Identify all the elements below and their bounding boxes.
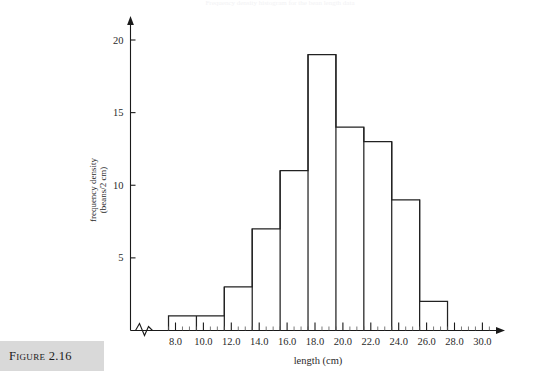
x-axis-tick-label: 26.0 (417, 336, 435, 347)
figure-caption-label: Figure 2.16 (0, 349, 72, 364)
y-axis-tick-label: 10 (113, 180, 124, 191)
histogram-bars-group (169, 55, 448, 331)
x-axis-tick-label: 8.0 (169, 336, 182, 347)
x-axis-tick-label: 12.0 (222, 336, 240, 347)
x-axis-tick-label: 10.0 (194, 336, 212, 347)
x-axis-tick-label: 16.0 (278, 336, 296, 347)
x-axis-ticks (169, 323, 490, 331)
y-axis-group: 5101520 (113, 16, 136, 331)
axis-break-zigzag-icon (136, 324, 153, 336)
x-axis-title: length (cm) (294, 355, 343, 367)
histogram-plot: 8.010.012.014.016.018.020.022.024.026.02… (0, 0, 533, 378)
x-axis-tick-label: 20.0 (334, 336, 352, 347)
x-axis-group: 8.010.012.014.016.018.020.022.024.026.02… (131, 323, 506, 347)
y-axis-tick-labels: 5101520 (113, 35, 124, 264)
y-axis-tick-label: 15 (113, 107, 124, 118)
figure-container: Frequency density histogram for the bean… (0, 0, 533, 378)
y-axis-title-line1: frequency density (88, 157, 98, 222)
y-axis-ticks (131, 40, 136, 258)
x-axis-tick-label: 14.0 (250, 336, 268, 347)
y-axis-tick-label: 5 (118, 252, 123, 263)
x-axis-tick-label: 24.0 (390, 336, 408, 347)
y-axis-arrow-icon (127, 16, 134, 25)
x-axis-tick-label: 18.0 (306, 336, 324, 347)
x-axis-arrow-icon (496, 327, 505, 334)
y-axis-title: frequency density (beans/2 cm) (88, 157, 108, 222)
x-axis-tick-labels: 8.010.012.014.016.018.020.022.024.026.02… (169, 336, 492, 347)
x-axis-tick-label: 22.0 (362, 336, 380, 347)
x-axis-tick-label: 28.0 (445, 336, 463, 347)
y-axis-tick-label: 20 (113, 35, 124, 46)
x-axis-tick-label: 30.0 (473, 336, 491, 347)
figure-caption-band: Figure 2.16 (0, 341, 104, 371)
y-axis-title-line2: (beans/2 cm) (98, 167, 108, 214)
